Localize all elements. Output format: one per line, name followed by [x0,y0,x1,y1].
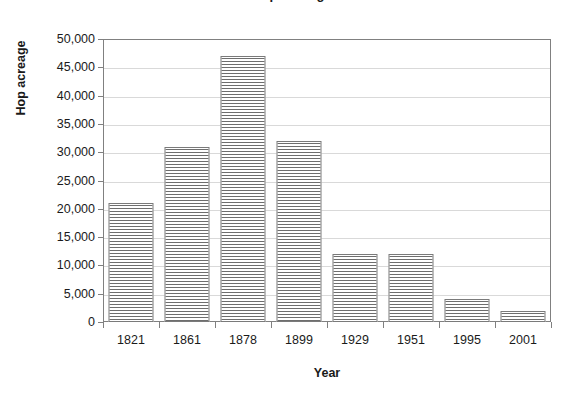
bar-slot [495,39,551,322]
x-tick-label: 2001 [493,334,553,347]
bar [165,147,210,322]
x-tick-mark [103,322,104,328]
x-axis-title: Year [103,366,551,380]
x-tick-mark [215,322,216,328]
y-tick-label: 25,000 [25,175,95,188]
bar [501,311,546,322]
y-tick-label: 20,000 [25,203,95,216]
y-tick-label: 5,000 [25,288,95,301]
x-tick-label: 1899 [269,334,329,347]
x-tick-mark [159,322,160,328]
x-tick-mark [271,322,272,328]
x-tick-mark [327,322,328,328]
x-tick-label: 1861 [157,334,217,347]
bar [221,56,266,322]
bar-slot [327,39,383,322]
bar-slot [159,39,215,322]
x-tick-mark [439,322,440,328]
x-tick-label: 1995 [437,334,497,347]
y-tick-label: 30,000 [25,146,95,159]
x-tick-label: 1878 [213,334,273,347]
chart-title: Hop acreage [0,0,584,2]
x-tick-label: 1929 [325,334,385,347]
bar-slot [215,39,271,322]
bar [277,141,322,322]
x-tick-mark [383,322,384,328]
y-tick-label: 50,000 [25,33,95,46]
y-tick-label: 40,000 [25,90,95,103]
x-tick-mark [551,322,552,328]
bar-slot [103,39,159,322]
x-tick-mark [495,322,496,328]
bars-layer [103,39,551,322]
y-tick-label: 35,000 [25,118,95,131]
bar-slot [439,39,495,322]
y-tick-label: 15,000 [25,231,95,244]
bar-slot [383,39,439,322]
bar [389,254,434,322]
x-tick-label: 1951 [381,334,441,347]
y-tick-label: 0 [25,316,95,329]
y-tick-label: 45,000 [25,61,95,74]
bar [333,254,378,322]
bar-slot [271,39,327,322]
bar [109,203,154,322]
bar [445,299,490,322]
y-tick-label: 10,000 [25,259,95,272]
x-tick-label: 1821 [101,334,161,347]
bar-chart: Hop acreage Hop acreage 50,00045,00040,0… [0,0,584,399]
